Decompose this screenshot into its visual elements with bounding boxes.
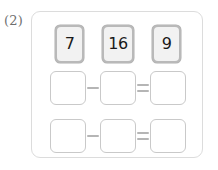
equation-1-subtrahend-box[interactable] [100, 71, 136, 105]
number-tile-face: 16 [104, 27, 132, 61]
number-tile-face: 7 [57, 27, 82, 61]
number-tile-row: 7 16 9 [32, 25, 204, 63]
problem-number-label: (2) [4, 13, 23, 28]
equation-2-difference-box[interactable] [150, 119, 186, 153]
equation-row-1 [32, 70, 204, 106]
equals-sign-icon [136, 119, 150, 153]
minus-sign-icon [86, 71, 100, 105]
problem-panel: 7 16 9 [31, 11, 203, 158]
equation-1-difference-box[interactable] [150, 71, 186, 105]
equation-1-minuend-box[interactable] [50, 71, 86, 105]
equation-row-2 [32, 118, 204, 154]
number-tile-value: 9 [162, 36, 172, 52]
number-tile-16: 16 [102, 25, 134, 63]
number-tile-7: 7 [55, 25, 84, 63]
number-tile-face: 9 [154, 27, 179, 61]
number-tile-9: 9 [152, 25, 181, 63]
number-tile-value: 7 [65, 36, 75, 52]
equation-2-minuend-box[interactable] [50, 119, 86, 153]
number-tile-value: 16 [108, 36, 127, 52]
minus-sign-icon [86, 119, 100, 153]
equals-sign-icon [136, 71, 150, 105]
equation-2-subtrahend-box[interactable] [100, 119, 136, 153]
